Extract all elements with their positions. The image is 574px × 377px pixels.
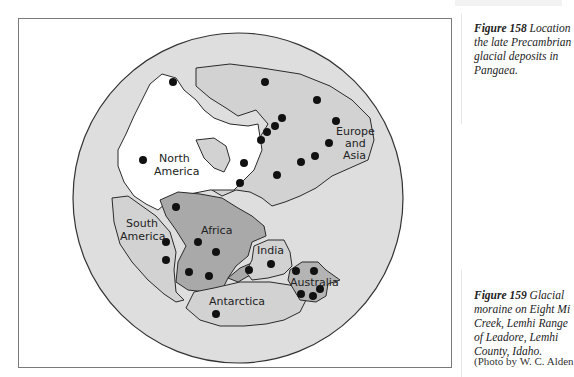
label-north-america-1: North	[159, 152, 190, 165]
figure-159-number: Figure 159	[474, 289, 527, 301]
label-africa: Africa	[201, 224, 232, 237]
caption-rule-159	[461, 270, 462, 377]
label-india: India	[257, 244, 284, 257]
caption-158-line-1: Location	[530, 22, 571, 34]
figure-159-caption: Figure 159 Glacial moraine on Eight Mi C…	[474, 288, 574, 358]
label-south-america-2: America	[120, 230, 165, 243]
caption-159-line-2: moraine on Eight Mi	[474, 302, 574, 316]
label-antarctica: Antarctica	[209, 295, 265, 308]
caption-158-line-2: the late Precambrian	[474, 35, 574, 49]
figure-158-number: Figure 158	[474, 22, 527, 34]
label-north-america-2: America	[154, 165, 199, 178]
caption-159-line-1: Glacial	[530, 289, 565, 301]
caption-159-line-4: of Leadore, Lemhi	[474, 330, 574, 344]
caption-159-line-3: Creek, Lemhi Range	[474, 316, 574, 330]
photo-credit: (Photo by W. C. Alden	[474, 355, 574, 367]
label-south-america-1: South	[126, 217, 158, 230]
figure-158-caption: Figure 158 Location the late Precambrian…	[474, 21, 574, 77]
caption-158-line-4: Pangaea.	[474, 63, 574, 77]
caption-rule-158	[461, 14, 462, 124]
label-asia: Asia	[343, 149, 366, 162]
label-australia: Australia	[290, 276, 339, 289]
caption-158-line-3: glacial deposits in	[474, 49, 574, 63]
